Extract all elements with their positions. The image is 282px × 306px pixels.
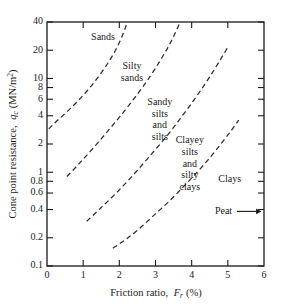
region-label-silty: silty [181,169,198,180]
svg-text:Friction ratio, Fr(%): Friction ratio, Fr(%) [110,287,202,300]
x-tick-label: 6 [262,269,267,280]
region-label-silts: silts [152,108,168,119]
y-tick-label: 20 [33,44,43,55]
x-tick-label: 5 [225,269,230,280]
region-label-sands: Sands [91,31,115,42]
cpt-soil-classification-chart: 0.10.20.40.60.812468102040 0123456 Sands… [0,0,282,306]
y-tick-label: 0.2 [31,231,44,242]
y-title-sub: c [11,111,20,115]
y-tick-label: 6 [38,93,43,104]
y-tick-label: 0.1 [31,259,44,270]
plot-frame [47,22,264,266]
axis-ticks [47,22,264,266]
y-tick-label: 0.6 [31,186,44,197]
y-tick-label: 4 [38,109,43,120]
y-title-unit-close: ) [7,69,19,73]
svg-text:Cone point resistance,: Cone point resistance, qc(MN/m2) [6,69,21,219]
peat-arrow-icon [237,209,261,215]
y-tick-label: 10 [33,72,43,83]
region-label-and: and [183,158,197,169]
x-axis-title: Friction ratio, Fr(%) [110,287,202,300]
y-tick-label: 2 [38,137,43,148]
region-label-silts: silts [182,146,198,157]
x-tick-label: 4 [189,269,194,280]
region-label-clays: clays [180,181,201,192]
region-label-clayey: Clayey [176,134,204,145]
x-tick-label: 0 [45,269,50,280]
region-label-silts: silts [152,131,168,142]
x-title-unit: (%) [186,287,202,299]
x-tick-label: 1 [81,269,86,280]
region-label-clays: Clays [218,173,241,184]
y-title-unit-open: (MN/m [7,77,19,109]
y-title-main: Cone point resistance, [7,125,18,218]
region-label-and: and [153,119,167,130]
region-label-silty: Silty [123,60,142,71]
y-tick-label: 40 [33,15,43,26]
x-title-main: Friction ratio, [110,287,168,298]
y-axis-tick-labels: 0.10.20.40.60.812468102040 [31,15,44,270]
curve-sands-siltysands-boundary [49,22,127,129]
region-label-sandy: Sandy [147,96,172,107]
x-title-sub: r [180,291,183,300]
x-axis-tick-labels: 0123456 [45,269,267,280]
chart-container: 0.10.20.40.60.812468102040 0123456 Sands… [0,0,282,306]
x-tick-label: 2 [117,269,122,280]
region-label-sands: sands [121,72,143,83]
y-axis-title: Cone point resistance, qc(MN/m2) [6,69,21,219]
boundary-curves [49,22,239,248]
x-tick-label: 3 [153,269,158,280]
y-tick-label: 0.4 [31,203,44,214]
region-label-peat: Peat [215,205,232,216]
y-tick-label: 1 [38,166,43,177]
